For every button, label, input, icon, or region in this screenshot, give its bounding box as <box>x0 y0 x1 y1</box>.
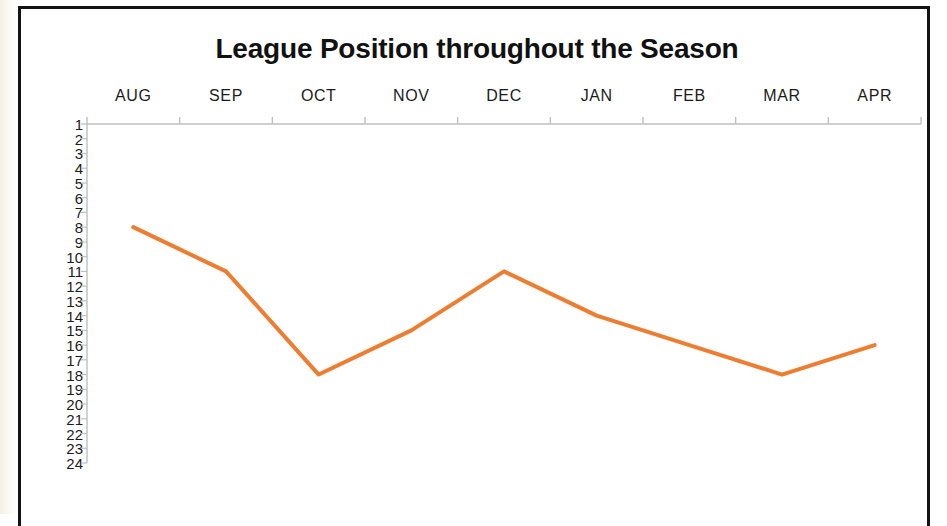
data-series-group <box>133 227 874 374</box>
plot-area <box>21 9 933 523</box>
chart-plot-svg <box>21 9 933 523</box>
series-line-league-position <box>133 227 874 374</box>
chart-frame: League Position throughout the Season AU… <box>18 6 930 526</box>
axis-lines-group <box>81 117 921 463</box>
